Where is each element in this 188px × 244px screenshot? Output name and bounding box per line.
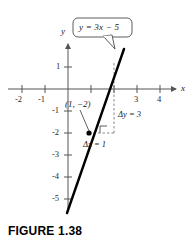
x-tick-label-neg2: -2 — [15, 95, 22, 104]
y-axis — [64, 44, 72, 212]
x-axis — [8, 85, 176, 93]
y-axis-label: y — [61, 27, 65, 36]
point-label: (1, −2) — [65, 100, 91, 109]
equation-label: y = 3x − 5 — [79, 23, 119, 32]
point-label-leader — [80, 110, 89, 131]
delta-x-label: Δx = 1 — [83, 140, 106, 149]
data-point-1-neg2 — [86, 130, 91, 135]
y-tick-label-neg1: -1 — [52, 106, 59, 115]
slope-triangle-dashed — [89, 63, 114, 133]
y-tick-label-1: 1 — [56, 62, 60, 71]
graph-canvas — [0, 0, 188, 244]
x-tick-label-4: 4 — [157, 95, 161, 104]
x-tick-label-neg1: -1 — [38, 95, 45, 104]
x-tick-label-3: 3 — [134, 95, 138, 104]
y-tick-label-neg5: -5 — [52, 194, 59, 203]
figure-caption: FIGURE 1.38 — [8, 224, 82, 238]
y-tick-label-neg3: -3 — [52, 150, 59, 159]
function-line — [67, 49, 124, 213]
x-axis-label: x — [181, 84, 185, 93]
delta-y-label: Δy = 3 — [118, 110, 141, 119]
figure-container: y x -2 -1 3 4 1 -1 -2 -3 -4 -5 y = 3x − … — [0, 0, 188, 244]
y-tick-label-neg2: -2 — [52, 128, 59, 137]
y-tick-label-neg4: -4 — [52, 172, 59, 181]
